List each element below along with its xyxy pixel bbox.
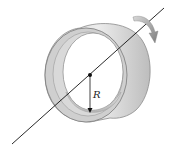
hollow-cylinder-diagram: R [0, 0, 171, 156]
hollow-cylinder [45, 28, 127, 122]
radius-label: R [92, 89, 101, 100]
